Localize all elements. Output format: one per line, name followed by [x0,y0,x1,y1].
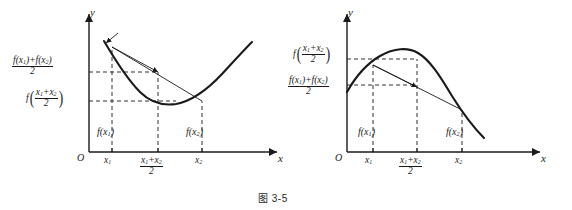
left-y-axis-label: y [90,6,95,18]
left-convex-curve [104,41,252,105]
left-y1-fmid: )+f(x [26,55,46,65]
right-xtick-mid-sub2: 2 [418,159,421,165]
right-xtick-x2-sub: 2 [459,159,462,165]
right-x-axis-label: x [541,152,546,164]
left-ylabel-function-at-midpoint: f(x1+x22) [26,88,64,109]
left-y2-numplus: +x [43,87,54,97]
right-xtick-mid-plus: +x [407,155,418,165]
right-panel-concave [347,14,540,152]
left-x-axis-label: x [278,152,283,164]
right-fx1-sub: 1 [369,130,372,137]
right-y-axis-label: y [348,6,353,18]
left-y1-fopen: f(x [13,55,23,65]
right-xtick-mid-den: 2 [399,167,422,177]
figure-container: y x O f(x1)+f(x2) 2 f(x1+x22) x1 x1+x2 2… [0,0,572,210]
left-chord-arrow [112,47,158,72]
right-fx2-close: ) [460,126,463,137]
right-y1-sub1: 1 [307,47,310,53]
right-y1-paren-close: ) [325,45,329,64]
left-y1-den: 2 [12,67,53,77]
right-ylabel-chord-midpoint-value: f(x1)+f(x2) 2 [288,76,329,97]
right-y1-sub2: 2 [321,47,324,53]
left-point-label-f-x1: f(x1) [97,126,114,137]
right-ylabel-function-at-midpoint: f(x1+x22) [293,44,331,65]
left-point-label-f-x2: f(x2) [186,126,203,137]
left-y1-sub2: 2 [46,59,49,65]
right-y1-numplus: +x [310,43,321,53]
left-xtick-mid-sub2: 2 [159,159,162,165]
left-y1-sub1: 1 [23,59,26,65]
right-y2-fmid: )+f(x [302,75,322,85]
figure-caption: 图 3-5 [258,190,288,205]
right-point-label-f-x2: f(x2) [446,126,463,137]
right-y2-fopen: f(x [289,75,299,85]
right-fx2-text: f(x [446,126,457,137]
left-fx1-text: f(x [97,126,108,137]
left-fx2-close: ) [200,126,203,137]
right-point-label-f-x1: f(x1) [358,126,375,137]
left-xtick-mid-plus: +x [148,155,159,165]
figure-vector-layer [0,0,572,210]
right-xtick-x1-sub: 1 [369,159,372,165]
left-y2-den: 2 [35,99,58,109]
left-ylabel-chord-midpoint-value: f(x1)+f(x2) 2 [12,56,53,77]
right-y2-sub1: 1 [299,79,302,85]
left-y2-paren-close: ) [58,89,62,108]
left-xtick-x2: x2 [195,155,202,165]
left-curve-pointer-arrow [106,33,118,43]
right-chord-arrow [373,65,417,87]
left-xtick-x1: x1 [104,155,111,165]
left-fx1-close: ) [111,126,114,137]
left-y2-sub1: 1 [40,91,43,97]
left-xtick-midpoint: x1+x2 2 [140,156,163,177]
left-xtick-mid-sub1: 1 [145,159,148,165]
left-origin-label: O [77,152,84,163]
right-xtick-mid-sub1: 1 [404,159,407,165]
right-fx1-close: ) [372,126,375,137]
right-xtick-x1: x1 [365,155,372,165]
right-concave-curve [347,49,484,138]
right-xtick-midpoint: x1+x2 2 [399,156,422,177]
right-fx1-text: f(x [358,126,369,137]
right-xtick-x2: x2 [455,155,462,165]
right-origin-label: O [335,152,342,163]
right-fx2-sub: 2 [457,130,460,137]
right-y2-den: 2 [288,87,329,97]
right-y2-sub2: 2 [322,79,325,85]
right-y1-den: 2 [302,55,325,65]
left-xtick-x2-sub: 2 [199,159,202,165]
left-fx2-text: f(x [186,126,197,137]
left-panel-convex [89,14,277,152]
left-y2-sub2: 2 [54,91,57,97]
left-fx2-sub: 2 [197,130,200,137]
right-y1-paren-open: ( [297,45,301,64]
left-y2-paren-open: ( [30,89,34,108]
left-xtick-mid-den: 2 [140,167,163,177]
left-xtick-x1-sub: 1 [108,159,111,165]
left-fx1-sub: 1 [108,130,111,137]
